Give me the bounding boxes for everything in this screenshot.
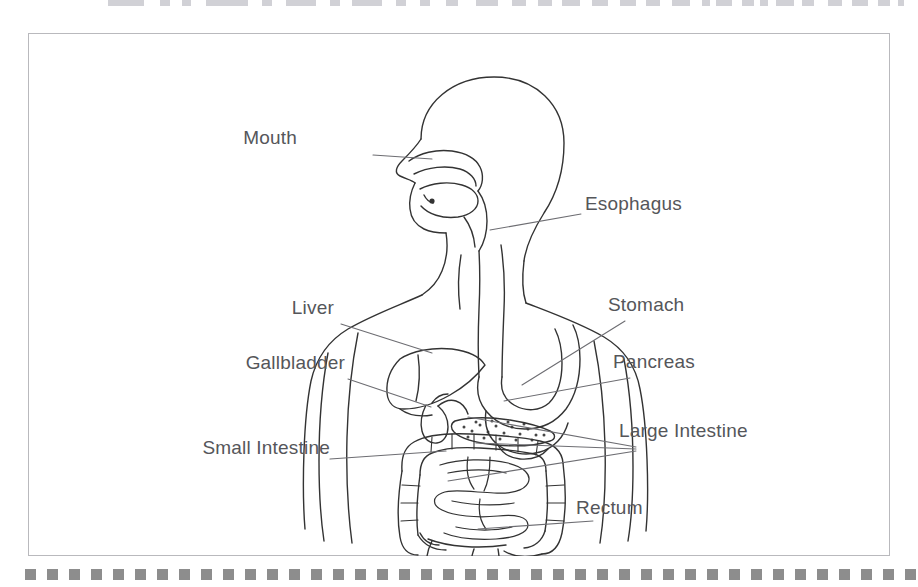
leader-stomach xyxy=(522,321,625,385)
decorative-square xyxy=(883,569,894,580)
top-crop-fragment-15 xyxy=(592,0,608,6)
decorative-square xyxy=(69,569,80,580)
decorative-square xyxy=(619,569,630,580)
top-crop-fragment-16 xyxy=(620,0,636,6)
pancreas-organ xyxy=(451,418,554,446)
decorative-square xyxy=(685,569,696,580)
decorative-square xyxy=(861,569,872,580)
leader-large-intestine-lower xyxy=(448,451,636,481)
label-small-intestine: Small Intestine xyxy=(202,437,330,459)
decorative-square xyxy=(641,569,652,580)
top-crop-fragment-22 xyxy=(760,0,768,6)
label-esophagus: Esophagus xyxy=(585,193,682,215)
label-mouth: Mouth xyxy=(243,127,297,149)
decorative-square xyxy=(201,569,212,580)
leader-rectum xyxy=(478,521,593,529)
decorative-square xyxy=(575,569,586,580)
top-crop-fragment-2 xyxy=(182,0,191,6)
top-crop-fragment-18 xyxy=(672,0,690,6)
gallbladder-organ xyxy=(421,394,468,443)
decorative-square xyxy=(47,569,58,580)
decorative-square xyxy=(135,569,146,580)
decorative-square xyxy=(751,569,762,580)
top-crop-fragment-21 xyxy=(742,0,754,6)
top-crop-fragment-1 xyxy=(160,0,170,6)
digestive-system-figure xyxy=(28,33,890,556)
top-cropped-text-strip xyxy=(0,0,918,14)
esophagus-organ xyxy=(459,245,505,377)
decorative-square xyxy=(553,569,564,580)
leader-pancreas xyxy=(504,378,630,401)
top-crop-fragment-0 xyxy=(108,0,144,6)
decorative-square xyxy=(597,569,608,580)
decorative-square xyxy=(289,569,300,580)
decorative-square xyxy=(223,569,234,580)
top-crop-fragment-9 xyxy=(420,0,430,6)
top-crop-fragment-11 xyxy=(476,0,498,6)
decorative-square xyxy=(157,569,168,580)
label-rectum: Rectum xyxy=(576,497,643,519)
decorative-square xyxy=(817,569,828,580)
rectum-organ xyxy=(470,549,500,556)
top-crop-fragment-4 xyxy=(262,0,272,6)
top-crop-fragment-28 xyxy=(898,0,904,6)
decorative-square xyxy=(443,569,454,580)
leader-mouth xyxy=(373,155,432,159)
decorative-square xyxy=(839,569,850,580)
top-crop-fragment-20 xyxy=(716,0,732,6)
top-crop-fragment-7 xyxy=(352,0,382,6)
decorative-square xyxy=(487,569,498,580)
top-crop-fragment-8 xyxy=(396,0,406,6)
decorative-square xyxy=(311,569,322,580)
top-crop-fragment-10 xyxy=(446,0,458,6)
label-pancreas: Pancreas xyxy=(613,351,695,373)
top-crop-fragment-17 xyxy=(646,0,660,6)
decorative-square xyxy=(421,569,432,580)
top-crop-fragment-5 xyxy=(286,0,316,6)
top-crop-fragment-26 xyxy=(852,0,868,6)
decorative-square xyxy=(905,569,916,580)
decorative-square xyxy=(729,569,740,580)
top-crop-fragment-3 xyxy=(206,0,248,6)
decorative-square xyxy=(707,569,718,580)
decorative-square xyxy=(179,569,190,580)
label-stomach: Stomach xyxy=(608,294,684,316)
mouth-organ xyxy=(409,150,487,251)
top-crop-fragment-23 xyxy=(776,0,794,6)
label-liver: Liver xyxy=(292,297,334,319)
decorative-square xyxy=(91,569,102,580)
decorative-square xyxy=(333,569,344,580)
decorative-square xyxy=(25,569,36,580)
decorative-square xyxy=(773,569,784,580)
decorative-square xyxy=(795,569,806,580)
decorative-square xyxy=(509,569,520,580)
decorative-square xyxy=(355,569,366,580)
label-large-intestine: Large Intestine xyxy=(619,420,748,442)
decorative-square xyxy=(465,569,476,580)
decorative-square xyxy=(113,569,124,580)
top-crop-fragment-12 xyxy=(512,0,526,6)
decorative-square xyxy=(663,569,674,580)
decorative-square xyxy=(399,569,410,580)
decorative-square xyxy=(531,569,542,580)
top-crop-fragment-6 xyxy=(330,0,340,6)
bottom-decorative-square-strip xyxy=(0,569,918,583)
label-gallbladder: Gallbladder xyxy=(246,352,345,374)
top-crop-fragment-14 xyxy=(562,0,580,6)
top-crop-fragment-25 xyxy=(828,0,842,6)
decorative-square xyxy=(245,569,256,580)
top-crop-fragment-13 xyxy=(538,0,552,6)
top-crop-fragment-24 xyxy=(802,0,814,6)
decorative-square xyxy=(377,569,388,580)
top-crop-fragment-19 xyxy=(702,0,710,6)
top-crop-fragment-27 xyxy=(878,0,890,6)
decorative-square xyxy=(267,569,278,580)
liver-organ xyxy=(387,348,485,415)
